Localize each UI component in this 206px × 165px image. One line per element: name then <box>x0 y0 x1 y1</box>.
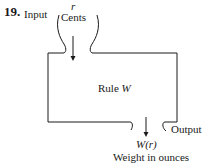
output-notch-left <box>130 122 132 130</box>
output-notch-right <box>163 122 166 131</box>
input-funnel-left <box>58 15 66 53</box>
input-funnel-right <box>90 15 98 53</box>
output-arrow-icon <box>144 117 149 137</box>
input-arrow-icon <box>71 36 76 61</box>
box-left-bottom <box>48 53 130 122</box>
machine-outline <box>0 0 206 165</box>
box-top-right <box>93 53 177 122</box>
